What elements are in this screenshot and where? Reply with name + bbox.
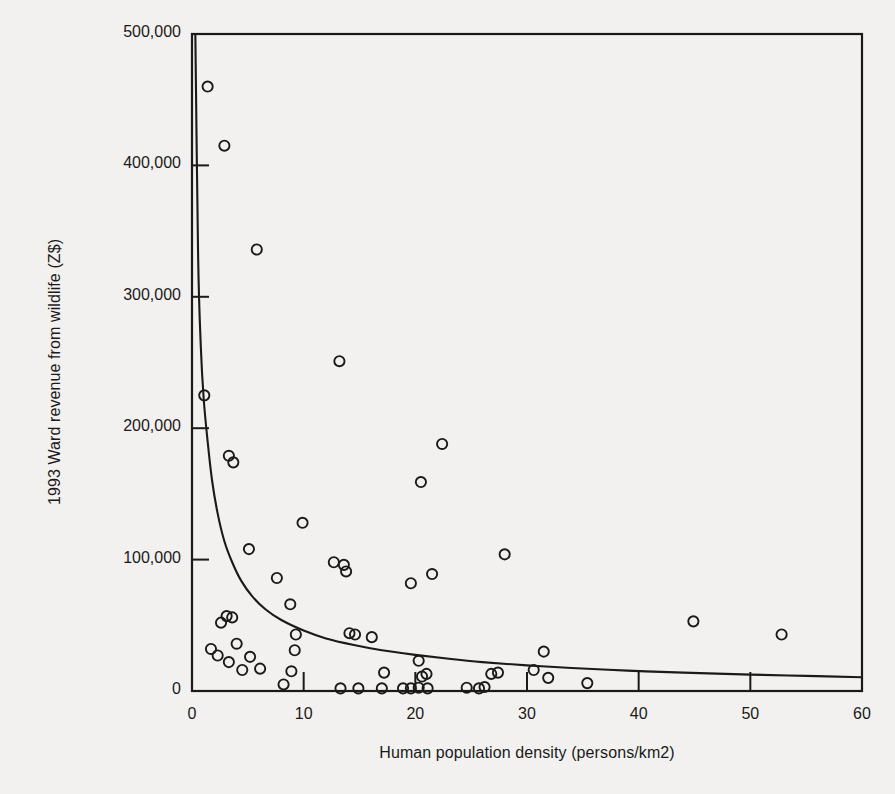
data-point-marker (543, 673, 553, 683)
data-point-marker (255, 664, 265, 674)
data-point-marker (286, 666, 296, 676)
data-point-marker (278, 679, 288, 689)
data-point-marker (285, 599, 295, 609)
data-point-marker (416, 477, 426, 487)
fitted-curve (195, 34, 862, 677)
data-point-marker (414, 656, 424, 666)
data-point-marker (244, 544, 254, 554)
data-point-marker (272, 573, 282, 583)
data-point-marker (539, 646, 549, 656)
data-point-marker (500, 549, 510, 559)
data-point-marker (341, 566, 351, 576)
data-point-marker (245, 652, 255, 662)
plot-canvas (0, 0, 895, 794)
data-point-layer (199, 81, 787, 693)
data-point-marker (777, 629, 787, 639)
data-point-marker (216, 618, 226, 628)
data-point-marker (203, 81, 213, 91)
data-point-marker (291, 629, 301, 639)
data-point-marker (339, 560, 349, 570)
data-point-marker (334, 356, 344, 366)
axis-ticks (192, 165, 750, 691)
data-point-marker (252, 244, 262, 254)
data-point-marker (219, 141, 229, 151)
scatter-chart-figure: 1993 Ward revenue from wildlife (Z$) Hum… (0, 0, 895, 794)
data-point-marker (237, 665, 247, 675)
data-point-marker (232, 639, 242, 649)
data-point-marker (493, 668, 503, 678)
data-point-marker (367, 632, 377, 642)
data-point-marker (213, 650, 223, 660)
data-point-marker (406, 578, 416, 588)
data-point-marker (427, 569, 437, 579)
plot-frame (192, 34, 862, 691)
data-point-marker (329, 557, 339, 567)
data-point-marker (297, 518, 307, 528)
data-point-marker (688, 616, 698, 626)
fit-curve-path (195, 34, 862, 677)
data-point-marker (582, 678, 592, 688)
data-point-marker (224, 657, 234, 667)
data-point-marker (437, 439, 447, 449)
plot-border (192, 34, 862, 691)
data-point-marker (379, 668, 389, 678)
data-point-marker (290, 645, 300, 655)
